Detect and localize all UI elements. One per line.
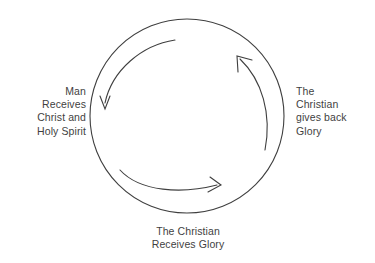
diagram-canvas: Man Receives Christ and Holy Spirit The … <box>0 0 375 263</box>
outer-circle <box>90 19 284 213</box>
label-christian-receives-glory: The Christian Receives Glory <box>112 225 264 251</box>
label-christian-gives-back-glory: The Christian gives back Glory <box>296 85 372 138</box>
label-man-receives-christ: Man Receives Christ and Holy Spirit <box>8 85 86 138</box>
right-ascending-arrow-shaft <box>240 59 267 150</box>
bottom-rightward-arrow-head <box>208 177 221 192</box>
bottom-rightward-arrow-shaft <box>120 170 217 190</box>
left-descending-arrow-shaft <box>105 40 175 103</box>
